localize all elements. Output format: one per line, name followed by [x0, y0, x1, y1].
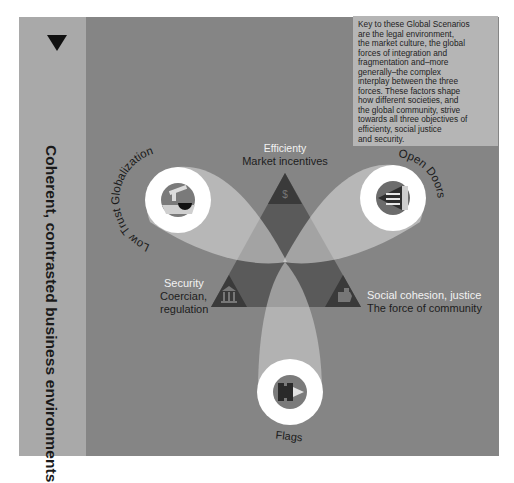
scenario-open-doors	[360, 165, 426, 231]
key-box: Key to these Global Scenarios are the le…	[353, 16, 498, 146]
security-subtitle-2: regulation	[160, 303, 208, 316]
efficiency-subtitle: Market incentives	[233, 155, 337, 168]
efficiency-label: Efficienty Market incentives	[245, 142, 325, 168]
scenario-flags	[257, 359, 323, 425]
dollar-icon: $	[282, 189, 288, 200]
security-subtitle-1: Coercian,	[160, 290, 208, 303]
security-label: Security Coercian, regulation	[160, 277, 208, 316]
key-text: Key to these Global Scenarios are the le…	[358, 20, 496, 144]
efficiency-title: Efficienty	[245, 142, 325, 155]
social-label: Social cohesion, justice The force of co…	[367, 289, 482, 315]
scenario-low-trust	[145, 167, 211, 233]
scenario-label-flags: Flags	[275, 429, 304, 444]
security-title: Security	[160, 277, 208, 290]
social-subtitle: The force of community	[367, 302, 482, 315]
key-line: and security.	[358, 135, 496, 145]
social-title: Social cohesion, justice	[367, 289, 482, 302]
